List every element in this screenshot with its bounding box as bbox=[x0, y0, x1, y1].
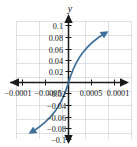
graph-figure: y 0.1 0.08 0.06 0.04 0.02 −0.02 −0.04 −0… bbox=[0, 0, 137, 147]
y-tick-label: 0.04 bbox=[49, 57, 63, 66]
y-tick-label: 0.08 bbox=[49, 34, 63, 43]
coordinate-plane: y 0.1 0.08 0.06 0.04 0.02 −0.02 −0.04 −0… bbox=[0, 0, 137, 147]
y-tick-label: −0.08 bbox=[47, 125, 66, 134]
y-tick-label: 0.02 bbox=[49, 68, 63, 77]
y-tick-label: 0.1 bbox=[53, 22, 63, 31]
x-tick-label: 0.0005 bbox=[80, 89, 103, 98]
y-tick-label: 0.06 bbox=[49, 46, 63, 55]
y-tick-label: −0.06 bbox=[47, 114, 66, 123]
y-tick-label: −0.1 bbox=[51, 136, 66, 145]
x-tick-label: −0.0005 bbox=[34, 89, 61, 98]
y-axis-label: y bbox=[67, 3, 73, 14]
y-tick-label: −0.04 bbox=[47, 102, 66, 111]
x-tick-label: 0.0001 bbox=[107, 89, 130, 98]
x-tick-label: −0.0001 bbox=[4, 89, 31, 98]
